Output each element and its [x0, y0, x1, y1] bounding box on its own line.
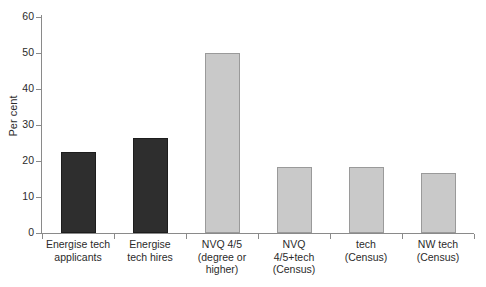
bar-chart-figure: Per cent 0102030405060 Energise tech app…: [0, 0, 486, 287]
y-tick-label: 60: [4, 11, 34, 22]
y-tick-mark: [36, 17, 41, 18]
bar: [277, 167, 312, 233]
y-tick-label-wrap: 10: [0, 191, 34, 202]
y-tick-label-wrap: 40: [0, 83, 34, 94]
y-tick-label-wrap: 20: [0, 155, 34, 166]
x-axis-category-label: NW tech (Census): [396, 238, 480, 263]
y-tick-label: 0: [4, 227, 34, 238]
bar: [349, 167, 384, 233]
bar: [61, 152, 96, 233]
y-tick-label-wrap: 60: [0, 11, 34, 22]
bar: [133, 138, 168, 233]
y-tick-label: 20: [4, 155, 34, 166]
y-tick-label: 50: [4, 47, 34, 58]
y-tick-label: 40: [4, 83, 34, 94]
y-tick-mark: [36, 89, 41, 90]
y-tick-mark: [36, 197, 41, 198]
y-tick-label: 10: [4, 191, 34, 202]
y-tick-label-wrap: 0: [0, 227, 34, 238]
y-tick-label-wrap: 30: [0, 119, 34, 130]
plot-area: [42, 17, 474, 233]
y-tick-mark: [36, 53, 41, 54]
y-tick-label-wrap: 50: [0, 47, 34, 58]
y-tick-mark: [36, 161, 41, 162]
y-tick-mark: [36, 233, 41, 234]
bar: [205, 53, 240, 233]
bar: [421, 173, 456, 233]
y-tick-mark: [36, 125, 41, 126]
y-tick-label: 30: [4, 119, 34, 130]
